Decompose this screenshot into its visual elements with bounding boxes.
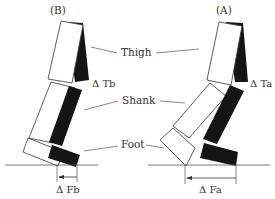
thigh-delta-b-label: Δ Tb [92,78,115,89]
shank-leader-left [84,101,118,110]
panel-b: (B) Δ Fb Δ Tb [5,4,115,195]
panel-a: (A) Δ Fa Δ Ta [148,4,272,195]
segment-labels: Thigh Shank Foot [84,46,199,151]
foot-label: Foot [121,138,145,150]
thigh-label: Thigh [121,46,152,58]
foot-leader-right [146,145,164,148]
panel-b-title: (B) [50,4,66,16]
leg-posture-diagram: (B) Δ Fb Δ Tb (A) [0,0,275,199]
shank-label: Shank [122,94,156,106]
arrowhead-left-icon [186,176,192,180]
foot-delta-b-label: Δ Fb [56,184,80,195]
thigh-leader-right [156,49,199,53]
foot-leader-left [84,146,118,151]
foot-delta-a-label: Δ Fa [199,184,222,195]
panel-a-title: (A) [216,4,232,16]
thigh-delta-a-label: Δ Ta [250,78,272,89]
arrowhead-left-icon [58,175,64,179]
thigh-leader-left [91,47,117,53]
foot-a-black-shape [200,143,238,166]
shank-leader-right [160,101,185,103]
